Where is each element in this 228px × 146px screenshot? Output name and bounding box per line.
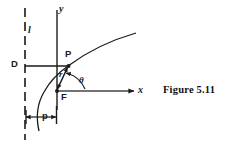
figure-container: y x l D P F r θ p Figure 5.11 xyxy=(0,0,228,146)
point-label-d: D xyxy=(11,59,18,69)
conic-curve xyxy=(37,33,136,131)
x-axis-label: x xyxy=(138,85,143,95)
p-measure-label: p xyxy=(42,111,48,121)
directrix-label: l xyxy=(28,25,31,35)
point-F-marker xyxy=(55,89,59,93)
figure-caption: Figure 5.11 xyxy=(163,85,215,96)
point-label-f: F xyxy=(61,92,67,102)
angle-label-theta: θ xyxy=(79,76,84,85)
point-label-p: P xyxy=(65,49,71,59)
radius-label-r: r xyxy=(59,70,63,79)
geometry-diagram xyxy=(0,0,228,146)
point-P-marker xyxy=(67,64,71,68)
y-axis-label: y xyxy=(59,4,63,14)
